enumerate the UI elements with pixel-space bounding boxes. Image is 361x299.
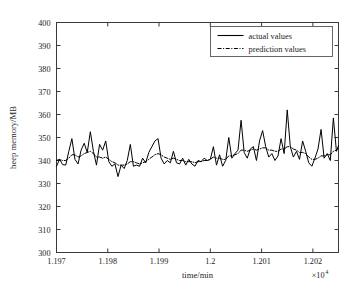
x-multiplier-exponent: 4 xyxy=(326,269,329,275)
x-tick-label: 1.197 xyxy=(47,257,65,266)
y-tick-label: 380 xyxy=(38,65,50,74)
legend-label-prediction: prediction values xyxy=(249,45,306,54)
y-tick-label: 360 xyxy=(38,111,50,120)
y-tick-label: 400 xyxy=(38,19,50,28)
y-tick-label: 310 xyxy=(38,226,50,235)
x-tick-label: 1.2 xyxy=(205,257,215,266)
y-tick-label: 340 xyxy=(38,157,50,166)
heap-memory-line-chart: 300310320330340350360370380390400 1.1971… xyxy=(0,0,361,299)
chart-figure: 300310320330340350360370380390400 1.1971… xyxy=(0,0,361,299)
x-multiplier-base: ×10 xyxy=(312,271,325,280)
x-axis-label: time/min xyxy=(182,270,214,280)
y-tick-label: 390 xyxy=(38,42,50,51)
y-tick-label: 350 xyxy=(38,134,50,143)
x-tick-label: 1.202 xyxy=(304,257,322,266)
x-tick-label: 1.199 xyxy=(150,257,168,266)
legend-label-actual: actual values xyxy=(249,32,292,41)
x-tick-label: 1.198 xyxy=(99,257,117,266)
y-tick-label: 370 xyxy=(38,88,50,97)
chart-legend: actual valuesprediction values xyxy=(211,27,333,57)
y-tick-label: 330 xyxy=(38,180,50,189)
y-tick-label: 320 xyxy=(38,203,50,212)
y-axis-label: heep memory/MB xyxy=(8,106,18,169)
x-tick-label: 1.201 xyxy=(252,257,270,266)
